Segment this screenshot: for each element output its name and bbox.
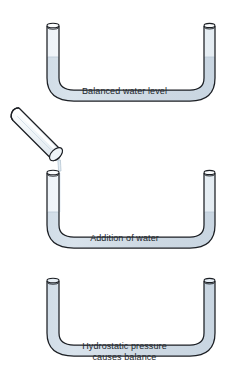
- u-tube-left-rim-3: [47, 278, 59, 283]
- hydrostatic-pressure-diagram: [0, 0, 249, 386]
- u-tube-left-rim-1: [47, 23, 59, 28]
- u-tube-right-rim-2: [204, 170, 215, 174]
- u-tube-left-rim-2: [47, 170, 59, 175]
- u-tube-right-rim-3: [204, 278, 215, 282]
- caption-addition-of-water: Addition of water: [0, 233, 249, 244]
- pouring-water-stream: [58, 160, 61, 171]
- caption-balanced-water-level: Balanced water level: [0, 86, 249, 97]
- caption-hydrostatic-pressure: Hydrostatic pressure causes balance: [0, 341, 249, 363]
- u-tube-right-rim-1: [204, 23, 215, 27]
